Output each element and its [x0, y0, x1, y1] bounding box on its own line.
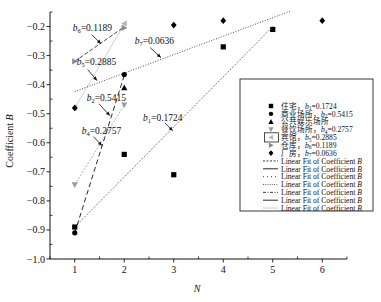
x-tick-label: 2 — [122, 264, 127, 275]
x-axis-title: N — [193, 283, 202, 294]
legend-fit-label-var: B — [357, 204, 362, 213]
chart: −0.2−0.3−0.4−0.5−0.6−0.7−0.8−0.9−1.01234… — [0, 0, 381, 302]
triangle-down-marker — [121, 102, 127, 108]
annotation-label: b4=0.2757 — [82, 126, 122, 137]
square-marker — [171, 172, 176, 177]
annotation-label: b5=0.2885 — [77, 57, 117, 68]
legend-fit-label-text: Linear Fit of Coefficient — [281, 204, 357, 213]
square-marker — [270, 27, 275, 32]
square-marker — [221, 44, 226, 49]
annotations: b6=0.1189b5=0.2885b7=0.0636b2=0.5415b4=0… — [73, 23, 183, 146]
y-axis-title-text: Coefficient — [4, 120, 15, 167]
y-tick-label: −0.2 — [27, 21, 45, 32]
legend-circle-icon — [269, 112, 273, 116]
legend-square-icon — [269, 104, 273, 108]
circle-marker — [122, 72, 127, 77]
legend-entry-value: =0.5415 — [328, 110, 353, 119]
square-marker — [122, 152, 127, 157]
diamond-marker — [319, 17, 325, 24]
diamond-marker — [220, 17, 226, 24]
x-tick-label: 3 — [171, 264, 176, 275]
y-tick-label: −0.9 — [27, 224, 45, 235]
triangle-up-marker — [121, 84, 127, 90]
legend: 住宅，b1=0.1724商业场所，b2=0.5415公共娱乐场所餐饮场所，b4=… — [240, 79, 373, 213]
x-tick-label: 4 — [221, 264, 226, 275]
y-tick-label: −0.4 — [27, 79, 45, 90]
annotation-value: =0.2885 — [85, 57, 117, 67]
square-marker — [72, 224, 77, 229]
annotation-value: =0.1189 — [81, 23, 112, 33]
annotation-value: =0.2757 — [90, 126, 122, 136]
annotation-value: =0.0636 — [143, 36, 175, 46]
y-tick-label: −1.0 — [27, 254, 45, 265]
x-tick-label: 5 — [270, 264, 275, 275]
y-tick-label: −0.5 — [27, 108, 45, 119]
y-tick-label: −0.3 — [27, 50, 45, 61]
x-tick-label: 6 — [320, 264, 325, 275]
annotation-label: b6=0.1189 — [73, 23, 112, 34]
annotation-value: =0.5415 — [95, 93, 127, 103]
fit-line — [75, 105, 125, 185]
x-tick-label: 1 — [72, 264, 77, 275]
circle-marker — [72, 230, 77, 235]
y-tick-label: −0.8 — [27, 195, 45, 206]
y-axis-title-var: B — [4, 114, 15, 120]
y-axis-title: Coefficient B — [4, 114, 15, 167]
triangle-down-marker — [72, 182, 78, 188]
y-tick-label: −0.6 — [27, 137, 45, 148]
y-tick-label: −0.7 — [27, 166, 45, 177]
annotation-value: =0.1724 — [151, 113, 183, 123]
annotation-label: b7=0.0636 — [135, 36, 175, 47]
legend-fit-label: Linear Fit of Coefficient B — [281, 204, 362, 213]
diamond-marker — [171, 22, 177, 29]
annotation-label: b1=0.1724 — [143, 113, 183, 124]
annotation-label: b2=0.5415 — [87, 93, 127, 104]
